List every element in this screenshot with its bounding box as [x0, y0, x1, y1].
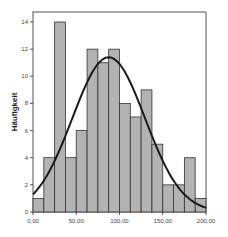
histogram-bar	[109, 49, 120, 212]
y-tick-label: 10	[21, 73, 28, 79]
y-tick-label: 8	[25, 100, 29, 106]
histogram-chart: 02468101214 0,0050,00100,00150,00200,00 …	[0, 0, 228, 237]
y-axis-label: Häufigkeit	[10, 92, 19, 131]
x-tick-label: 150,00	[154, 218, 173, 224]
histogram-bar	[120, 103, 131, 212]
x-axis: 0,0050,00100,00150,00200,00	[27, 212, 216, 224]
histogram-bar	[152, 144, 163, 212]
y-tick-label: 14	[21, 19, 28, 25]
x-tick-label: 0,00	[27, 218, 39, 224]
y-tick-label: 12	[21, 46, 28, 52]
y-axis: 02468101214	[21, 19, 33, 215]
y-tick-label: 6	[25, 128, 29, 134]
x-tick-label: 100,00	[110, 218, 129, 224]
histogram-bar	[141, 90, 152, 212]
histogram-bar	[55, 22, 66, 212]
x-tick-label: 200,00	[197, 218, 216, 224]
x-tick-label: 50,00	[69, 218, 85, 224]
histogram-bar	[65, 158, 76, 212]
histogram-bar	[163, 185, 174, 212]
histogram-bar	[76, 131, 87, 212]
y-tick-label: 2	[25, 182, 29, 188]
histogram-bar	[33, 198, 44, 212]
y-tick-label: 4	[25, 155, 29, 161]
histogram-bar	[130, 117, 141, 212]
histogram-bar	[98, 63, 109, 212]
histogram-bar	[184, 158, 195, 212]
y-tick-label: 0	[25, 209, 29, 215]
